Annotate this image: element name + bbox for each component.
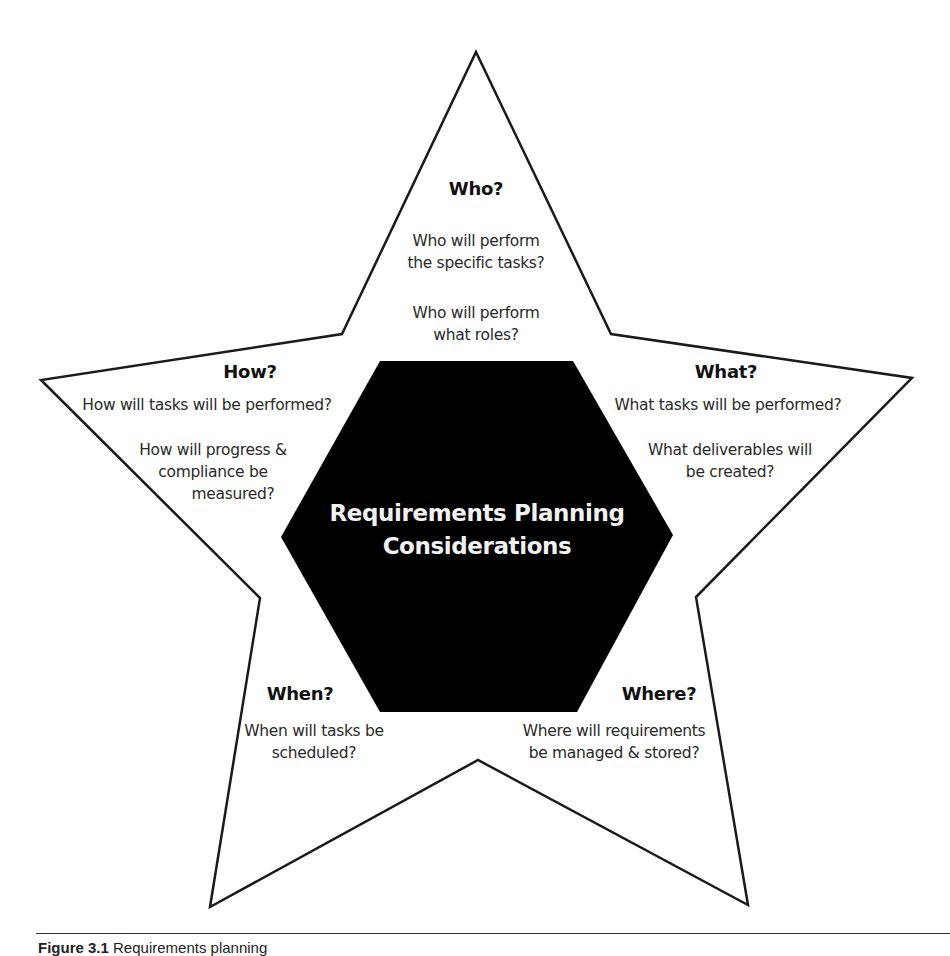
caption-divider	[36, 933, 950, 934]
figure-caption-text: Requirements planning	[113, 939, 267, 956]
center-title-line2: Considerations	[281, 530, 673, 563]
how-heading: How?	[200, 361, 300, 382]
who-question-1: Who will perform the specific tasks?	[376, 230, 576, 274]
where-question-1: Where will requirements be managed & sto…	[504, 720, 724, 764]
center-title-line1: Requirements Planning	[281, 497, 673, 530]
what-question-2: What deliverables will be created?	[630, 439, 830, 483]
how-question-2: How will progress & compliance be measur…	[118, 439, 308, 505]
when-question-1: When will tasks be scheduled?	[234, 720, 394, 764]
figure-label: Figure 3.1	[38, 939, 109, 956]
who-question-2: Who will perform what roles?	[376, 302, 576, 346]
figure-caption: Figure 3.1 Requirements planning	[38, 939, 267, 956]
center-title: Requirements Planning Considerations	[281, 497, 673, 563]
who-heading: Who?	[426, 178, 526, 199]
what-heading: What?	[666, 361, 786, 382]
what-question-1: What tasks will be performed?	[608, 394, 848, 416]
when-heading: When?	[250, 683, 350, 704]
where-heading: Where?	[604, 683, 714, 704]
how-question-1: How will tasks will be performed?	[76, 394, 338, 416]
